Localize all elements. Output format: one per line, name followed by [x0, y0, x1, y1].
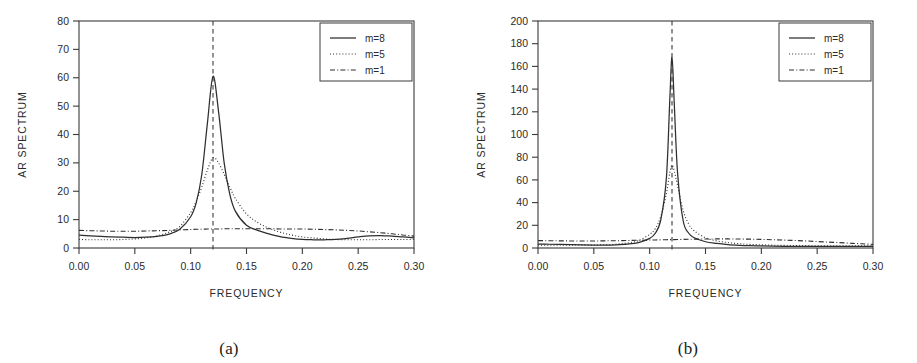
- y-tick-label: 80: [57, 15, 69, 27]
- x-tick-label: 0.00: [528, 260, 549, 272]
- y-tick-label: 40: [57, 128, 69, 140]
- x-tick-label: 0.25: [807, 260, 828, 272]
- x-tick-label: 0.10: [180, 260, 201, 272]
- legend-label-m1: m=1: [365, 65, 385, 76]
- series-line-m5: [79, 158, 414, 240]
- y-tick-label: 160: [510, 60, 528, 72]
- legend-label-m5: m=5: [365, 49, 385, 60]
- series-line-m1: [79, 229, 414, 236]
- series-line-m5: [538, 165, 873, 246]
- x-tick-label: 0.15: [236, 260, 257, 272]
- panel-b-caption: (b): [459, 339, 917, 359]
- y-axis-title: AR SPECTRUM: [475, 91, 487, 177]
- x-tick-label: 0.20: [751, 260, 772, 272]
- y-tick-label: 0: [522, 242, 528, 254]
- y-tick-label: 20: [516, 219, 528, 231]
- y-tick-label: 0: [63, 242, 69, 254]
- y-tick-label: 60: [516, 174, 528, 186]
- figure-container: 010203040506070800.000.050.100.150.200.2…: [0, 0, 917, 363]
- x-tick-label: 0.25: [348, 260, 369, 272]
- y-tick-label: 20: [57, 185, 69, 197]
- y-tick-label: 180: [510, 37, 528, 49]
- y-tick-label: 10: [57, 213, 69, 225]
- x-tick-label: 0.00: [69, 260, 90, 272]
- legend-label-m5: m=5: [824, 49, 844, 60]
- y-tick-label: 50: [57, 100, 69, 112]
- panel-a-plot: 010203040506070800.000.050.100.150.200.2…: [0, 0, 458, 310]
- legend-label-m1: m=1: [824, 65, 844, 76]
- x-axis-title: FREQUENCY: [209, 287, 283, 299]
- y-tick-label: 200: [510, 15, 528, 27]
- x-tick-label: 0.05: [584, 260, 605, 272]
- x-axis-title: FREQUENCY: [668, 287, 742, 299]
- y-tick-label: 70: [57, 43, 69, 55]
- y-tick-label: 40: [516, 196, 528, 208]
- y-tick-label: 120: [510, 105, 528, 117]
- legend-label-m8: m=8: [365, 33, 385, 44]
- y-tick-label: 140: [510, 83, 528, 95]
- y-tick-label: 30: [57, 156, 69, 168]
- x-tick-label: 0.30: [404, 260, 425, 272]
- y-axis-title: AR SPECTRUM: [16, 91, 28, 177]
- panel-b-plot: 0204060801001201401601802000.000.050.100…: [459, 0, 917, 310]
- x-tick-label: 0.15: [695, 260, 716, 272]
- panel-a: 010203040506070800.000.050.100.150.200.2…: [0, 0, 458, 363]
- y-tick-label: 80: [516, 151, 528, 163]
- y-tick-label: 100: [510, 128, 528, 140]
- x-tick-label: 0.30: [863, 260, 884, 272]
- panel-b: 0204060801001201401601802000.000.050.100…: [459, 0, 917, 363]
- y-tick-label: 60: [57, 71, 69, 83]
- x-tick-label: 0.20: [292, 260, 313, 272]
- x-tick-label: 0.05: [125, 260, 146, 272]
- panel-a-caption: (a): [0, 339, 458, 359]
- series-line-m8: [538, 57, 873, 246]
- series-line-m8: [79, 76, 414, 240]
- x-tick-label: 0.10: [639, 260, 660, 272]
- legend-label-m8: m=8: [824, 33, 844, 44]
